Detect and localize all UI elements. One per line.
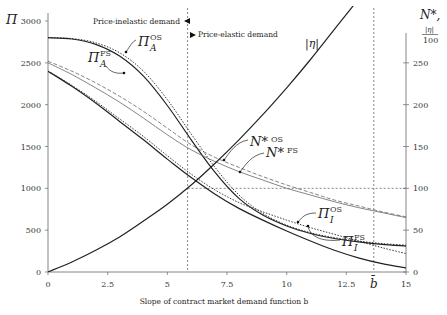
- label-sub: I: [329, 215, 334, 225]
- right-arrow-icon: [190, 32, 196, 38]
- leader-pi-a-fs-dot: [123, 72, 126, 75]
- label-base: Π: [87, 50, 100, 65]
- y-left-tick-label: 0: [36, 268, 41, 277]
- leader-pi-i-os: [298, 213, 316, 222]
- label-pi-a-os: ΠOSA: [137, 33, 162, 53]
- series-n-os: [48, 61, 406, 217]
- price-elastic-label: Price-elastic demand: [198, 30, 278, 39]
- series-: [48, 0, 406, 272]
- label-sup: FS: [100, 49, 111, 58]
- y-left-tick-label: 500: [26, 226, 41, 235]
- leader-pi-a-os-dot: [125, 51, 128, 54]
- label-base: Π: [341, 234, 354, 249]
- y-right-tick-label: 100: [413, 184, 428, 193]
- x-tick-label: 2.5: [101, 280, 114, 289]
- series-n-fs: [48, 63, 406, 218]
- x-tick-label: 7.5: [221, 280, 234, 289]
- y-left-tick-label: 3000: [21, 17, 41, 26]
- label-sup: OS: [330, 205, 342, 214]
- y-right-tick-label: 200: [413, 101, 428, 110]
- chart: 02.557.51012.515050010001500200025003000…: [0, 0, 447, 315]
- label-sub: A: [99, 59, 107, 69]
- label-sub: A: [149, 43, 157, 53]
- y-left-tick-label: 2000: [21, 101, 41, 110]
- leader-pi-a-os: [126, 40, 136, 52]
- y-right-axis-title-100: 100: [423, 36, 438, 45]
- series-layer: [48, 0, 406, 272]
- y-left-tick-label: 1000: [21, 184, 41, 193]
- x-tick-label: 5: [165, 280, 170, 289]
- y-right-tick-label: 150: [413, 143, 428, 152]
- y-right-tick-label: 250: [413, 59, 428, 68]
- leader-n-fs-dot: [239, 171, 242, 174]
- x-tick-label: 12.5: [337, 280, 355, 289]
- y-left-tick-label: 1500: [21, 143, 41, 152]
- label-base: N*: [265, 145, 284, 160]
- x-tick-label: 0: [45, 280, 50, 289]
- label-sup: FS: [287, 146, 298, 155]
- label-pi-i-fs: ΠFSI: [341, 233, 365, 253]
- leader-n-os-dot: [223, 159, 226, 162]
- x-tick-label: 10: [282, 280, 292, 289]
- label-sub: I: [353, 243, 358, 253]
- label-sup: OS: [150, 33, 162, 42]
- label-sup: FS: [354, 233, 365, 242]
- label-n-fs: N*FS: [265, 145, 298, 160]
- label-sup: OS: [271, 135, 283, 144]
- left-arrow-icon: [184, 18, 190, 24]
- y-left-tick-label: 2500: [21, 59, 41, 68]
- y-right-axis-title-n: N*,: [419, 8, 440, 22]
- x-tick-label: 15: [401, 280, 411, 289]
- label-base: Π: [317, 206, 330, 221]
- price-inelastic-label: Price-inelastic demand: [93, 17, 180, 26]
- x-axis-title: Slope of contract market demand function…: [140, 297, 309, 306]
- label-pi-a-fs: ΠFSA: [87, 49, 111, 69]
- leader-pi-i-os-dot: [297, 221, 300, 224]
- b-bar-tick-label: b̄: [370, 275, 378, 291]
- label-base: Π: [137, 34, 150, 49]
- guide-lines: [188, 8, 406, 272]
- label-eta: |η|: [305, 37, 319, 51]
- y-left-axis-title: Π: [5, 12, 18, 27]
- y-right-tick-label: 0: [413, 268, 418, 277]
- y-right-tick-label: 50: [413, 226, 423, 235]
- label-pi-i-os: ΠOSI: [317, 205, 342, 225]
- leader-pi-a-fs: [106, 66, 124, 73]
- leader-pi-i-fs-dot: [307, 225, 310, 228]
- series-labels: ΠOSAΠFSAN*OSN*FSΠOSIΠFSI|η|: [87, 33, 365, 253]
- axes: 02.557.51012.515050010001500200025003000…: [21, 13, 429, 291]
- y-right-axis-title-eta: |η|: [425, 26, 434, 34]
